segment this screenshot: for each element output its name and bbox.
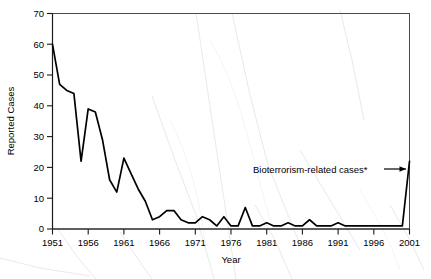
y-tick-label: 30 [33,131,44,142]
x-tick-label: 1961 [113,237,134,248]
y-tick-label: 40 [33,100,44,111]
data-series-line [53,44,410,226]
x-tick-label: 1986 [292,237,313,248]
y-tick-label: 20 [33,162,44,173]
x-tick-marks [53,229,410,235]
y-axis-title: Reported Cases [5,86,16,155]
y-tick-labels: 0 10 20 30 40 50 60 70 [33,8,44,235]
x-tick-label: 1951 [42,237,63,248]
x-tick-label: 2001 [399,237,420,248]
x-axis-title: Year [221,254,240,265]
plot-area: 0 10 20 30 40 50 60 70 Reported Cases [0,0,431,279]
x-tick-label: 1976 [220,237,241,248]
anthrax-reported-cases-chart: 0 10 20 30 40 50 60 70 Reported Cases [0,0,431,279]
x-tick-labels: 1951 1956 1961 1966 1971 1976 1981 1986 … [42,237,420,248]
annotation-arrow-head [400,166,407,172]
x-tick-label: 1981 [256,237,277,248]
bioterrorism-annotation: Bioterrorism-related cases* [253,164,406,175]
annotation-label: Bioterrorism-related cases* [253,164,368,175]
y-tick-label: 10 [33,193,44,204]
x-tick-label: 1971 [185,237,206,248]
y-tick-label: 0 [39,223,44,234]
x-tick-label: 1991 [328,237,349,248]
y-tick-label: 70 [33,8,44,19]
y-tick-label: 60 [33,39,44,50]
y-tick-label: 50 [33,69,44,80]
x-tick-label: 1956 [78,237,99,248]
y-tick-marks [47,14,53,230]
x-tick-label: 1996 [363,237,384,248]
x-tick-label: 1966 [149,237,170,248]
plot-frame [53,14,410,230]
